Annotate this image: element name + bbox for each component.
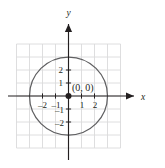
x-tick-label-1: 1 [80,100,85,110]
y-tick-label-neg2: –2 [54,118,64,128]
coordinate-plane-figure: y x –2 –1 1 2 2 1 –1 –2 (0, 0) [0,0,165,168]
figure-container: y x –2 –1 1 2 2 1 –1 –2 (0, 0) [0,0,165,168]
origin-label: (0, 0) [72,82,94,94]
y-tick-label-neg1: –1 [54,105,64,115]
y-tick-label-2: 2 [59,65,64,75]
x-tick-label-2: 2 [93,100,98,110]
x-axis-arrow-icon [126,92,134,99]
x-axis-label: x [140,92,146,102]
origin-point [66,93,72,99]
y-axis-arrow-icon [65,24,72,32]
x-tick-label-neg2: –2 [37,100,47,110]
y-tick-label-1: 1 [59,78,64,88]
y-axis-label: y [65,8,71,18]
